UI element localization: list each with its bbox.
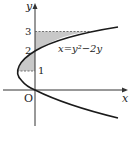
tick-label-1: 1 <box>38 66 44 76</box>
origin-label: O <box>24 93 33 104</box>
parabola-area-diagram: y x O 3 2 1 x=y²−2y <box>0 0 130 145</box>
x-axis-label: x <box>122 93 128 104</box>
tick-label-3: 3 <box>25 27 31 37</box>
tick-label-2: 2 <box>25 46 31 56</box>
curve-equation-label: x=y²−2y <box>58 44 102 54</box>
diagram-canvas <box>0 0 130 145</box>
y-axis-label: y <box>26 1 32 12</box>
y-axis-arrow-icon <box>33 3 38 9</box>
